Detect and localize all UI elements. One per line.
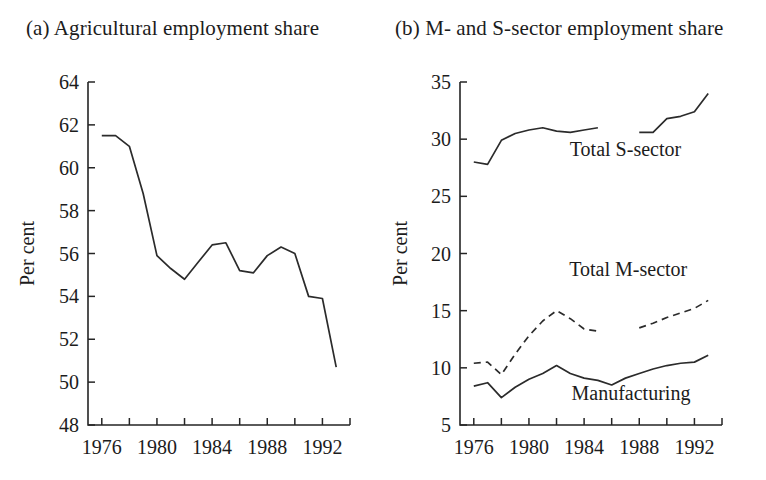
y-tick-label: 10 (431, 357, 451, 379)
figure-container: (a) Agricultural employment share 485052… (0, 0, 766, 480)
y-tick-label: 30 (431, 128, 451, 150)
x-tick-label: 1988 (619, 436, 659, 458)
x-tick-label: 1980 (509, 436, 549, 458)
series-line-agricultural-employment-share (102, 136, 336, 368)
y-tick-label: 64 (59, 71, 79, 93)
x-tick-label: 1976 (82, 436, 122, 458)
series-line-total-m-sector (474, 311, 598, 375)
y-tick-label: 5 (441, 414, 451, 436)
y-tick-label: 35 (431, 71, 451, 93)
y-tick-label: 50 (59, 371, 79, 393)
chart-panel-a: (a) Agricultural employment share 485052… (0, 0, 383, 480)
y-tick-label: 25 (431, 185, 451, 207)
y-tick-label: 54 (59, 285, 79, 307)
y-tick-label: 48 (59, 414, 79, 436)
chart-b-plot: 510152025303519761980198419881992Per cen… (383, 0, 766, 480)
series-annotation: Manufacturing (572, 382, 691, 405)
y-tick-label: 62 (59, 114, 79, 136)
y-tick-label: 15 (431, 300, 451, 322)
series-line-total-m-sector (639, 300, 708, 327)
chart-a-plot: 48505254565860626419761980198419881992Pe… (0, 0, 383, 480)
y-tick-label: 60 (59, 157, 79, 179)
x-tick-label: 1988 (247, 436, 287, 458)
x-tick-label: 1984 (564, 436, 604, 458)
y-tick-label: 52 (59, 328, 79, 350)
y-tick-label: 20 (431, 243, 451, 265)
series-annotation: Total M-sector (569, 258, 687, 280)
y-axis-title: Per cent (389, 221, 411, 286)
x-tick-label: 1976 (454, 436, 494, 458)
chart-panel-b: (b) M- and S-sector employment share 510… (383, 0, 766, 480)
x-tick-label: 1992 (674, 436, 714, 458)
x-tick-label: 1984 (192, 436, 232, 458)
y-tick-label: 56 (59, 243, 79, 265)
y-tick-label: 58 (59, 200, 79, 222)
y-axis-title: Per cent (16, 221, 38, 286)
series-line-total-s-sector (639, 93, 708, 132)
x-tick-label: 1980 (137, 436, 177, 458)
axis-spines (88, 82, 350, 425)
series-annotation: Total S-sector (570, 138, 682, 160)
x-tick-label: 1992 (302, 436, 342, 458)
